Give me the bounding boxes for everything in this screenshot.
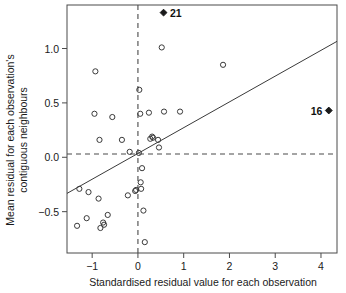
x-axis-title: Standardised residual value for each obs… <box>89 276 317 288</box>
y-axis-title-line2: contiguous neighbours <box>17 87 29 193</box>
y-axis-title-line1: Mean residual for each observation's <box>4 54 16 225</box>
x-tick-label: 4 <box>318 260 324 272</box>
y-tick-label: 1.0 <box>44 43 59 55</box>
x-tick-label: 2 <box>227 260 233 272</box>
y-tick-label: 0.0 <box>44 151 59 163</box>
y-tick-label: −0.5 <box>38 206 59 218</box>
outlier-label: 16 <box>311 105 323 117</box>
outlier-label: 21 <box>170 7 182 19</box>
x-tick-label: 3 <box>272 260 278 272</box>
x-tick-label: 1 <box>181 260 187 272</box>
x-tick-label: −1 <box>86 260 98 272</box>
y-tick-label: 0.5 <box>44 97 59 109</box>
x-tick-label: 0 <box>135 260 141 272</box>
residual-scatter-chart: −101234−0.50.00.51.02116 Standardised re… <box>0 0 346 293</box>
